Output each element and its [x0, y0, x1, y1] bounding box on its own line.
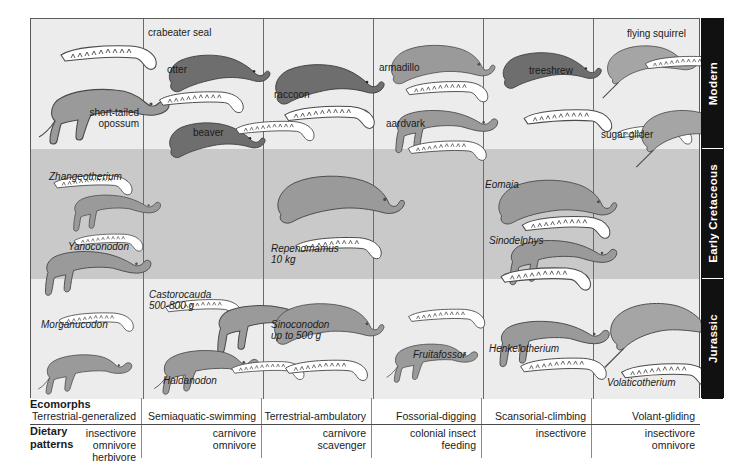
diet-cell-4: insectivore — [482, 425, 592, 458]
taxon-label-otter: otter — [167, 64, 217, 75]
mammal-ecomorph-figure: short-tailed opossum crabeater seal otte… — [0, 0, 754, 470]
diet-cell-0: insectivore omnivore herbivore — [30, 425, 142, 458]
diet-text-1: carnivore omnivore — [213, 427, 256, 451]
taxon-label-sinodelphys: Sinodelphys — [489, 235, 563, 246]
taxon-label-sinoconodon: Sinoconodon up to 500 g — [271, 319, 355, 341]
taxon-label-armadillo: armadillo — [379, 62, 441, 73]
period-text-jurassic: Jurassic — [707, 314, 719, 363]
diet-cell-1: carnivore omnivore — [142, 425, 262, 458]
ecomorph-cell-1: Semiaquatic-swimming — [142, 398, 262, 424]
period-text-modern: Modern — [707, 62, 719, 105]
period-label-early-cretaceous: Early Cretaceous — [702, 149, 723, 279]
ecomorph-cell-4: Scansorial-climbing — [482, 398, 592, 424]
ecomorph-text-0: Terrestrial-generalized — [32, 410, 136, 422]
taxon-label-short-tailed-opossum: short-tailed opossum — [69, 107, 139, 129]
period-text-early-cretaceous: Early Cretaceous — [707, 164, 719, 263]
taxon-label-flying-squirrel: flying squirrel — [627, 28, 707, 39]
taxon-label-henkelotherium: Henkelotherium — [489, 343, 581, 354]
taxon-label-repenomamus: Repenomamus 10 kg — [271, 243, 361, 265]
diet-cell-5: insectivore omnivore — [592, 425, 700, 458]
period-label-modern: Modern — [702, 19, 723, 149]
taxon-label-sugar-glider: sugar glider — [601, 129, 677, 140]
diet-cell-2: carnivore scavenger — [262, 425, 372, 458]
ecomorph-text-2: Terrestrial-ambulatory — [264, 410, 366, 422]
ecomorph-matrix: short-tailed opossum crabeater seal otte… — [30, 18, 700, 398]
taxon-label-yanoconodon: Yanoconodon — [68, 241, 148, 252]
diet-text-4: insectivore — [536, 427, 586, 439]
taxon-label-beaver: beaver — [193, 127, 243, 138]
taxon-label-crabeater-seal: crabeater seal — [148, 27, 238, 38]
taxon-label-morganucodon: Morganucodon — [41, 319, 121, 330]
ecomorph-text-5: Volant-gliding — [632, 410, 695, 422]
geologic-period-rail: Modern Early Cretaceous Jurassic — [701, 18, 724, 398]
taxon-label-treeshrew: treeshrew — [529, 65, 599, 76]
ecomorph-diet-table: Ecomorphs Terrestrial-generalized Semiaq… — [30, 398, 724, 458]
ecomorph-cell-5: Volant-gliding — [592, 398, 700, 424]
ecomorphs-row: Ecomorphs Terrestrial-generalized Semiaq… — [30, 398, 700, 425]
diet-cell-3: colonial insect feeding — [372, 425, 482, 458]
diet-text-0: insectivore omnivore herbivore — [86, 427, 136, 463]
taxon-label-eomaia: Eomaia — [485, 179, 547, 190]
ecomorph-text-4: Scansorial-climbing — [495, 410, 586, 422]
taxon-label-castorocauda: Castorocauda 500-800 g — [149, 289, 233, 311]
period-label-jurassic: Jurassic — [702, 279, 723, 399]
ecomorph-cell-0: Terrestrial-generalized — [30, 398, 142, 424]
diet-text-3: colonial insect feeding — [410, 427, 476, 451]
ecomorph-cell-2: Terrestrial-ambulatory — [262, 398, 372, 424]
diet-text-5: insectivore omnivore — [645, 427, 695, 451]
taxon-label-aardvark: aardvark — [386, 118, 448, 129]
silhouette-artwork-layer — [31, 19, 701, 399]
dietary-patterns-row: Dietary patterns insectivore omnivore he… — [30, 425, 700, 458]
ecomorph-cell-3: Fossorial-digging — [372, 398, 482, 424]
taxon-label-zhangeotherium: Zhangeotherium — [49, 171, 135, 182]
ecomorph-text-3: Fossorial-digging — [396, 410, 476, 422]
taxon-label-volaticotherium: Volaticotherium — [607, 377, 699, 388]
diet-text-2: carnivore scavenger — [318, 427, 366, 451]
taxon-label-fruitafossor: Fruitafossor — [413, 349, 493, 360]
ecomorph-text-1: Semiaquatic-swimming — [148, 410, 256, 422]
taxon-label-haldanodon: Haldanodon — [163, 375, 241, 386]
taxon-label-raccoon: raccoon — [274, 89, 334, 100]
